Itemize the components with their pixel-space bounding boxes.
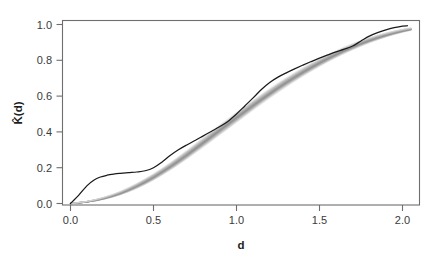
y-tick-label-0: 0.0 xyxy=(37,198,52,210)
y-tick-label-4: 0.8 xyxy=(37,54,52,66)
x-tick-label-0: 0.0 xyxy=(63,214,78,226)
y-tick-label-2: 0.4 xyxy=(37,126,52,138)
x-tick-label-1: 0.5 xyxy=(146,214,161,226)
y-tick-label-3: 0.6 xyxy=(37,90,52,102)
x-tick-label-4: 2.0 xyxy=(395,214,410,226)
y-tick-label-1: 0.2 xyxy=(37,162,52,174)
x-tick-label-2: 1.0 xyxy=(229,214,244,226)
x-tick-label-3: 1.5 xyxy=(312,214,327,226)
chart-figure: 0.0 0.2 0.4 0.6 0.8 1.0 0.0 0.5 1.0 1.5 … xyxy=(0,0,442,263)
x-axis-title: d xyxy=(237,239,244,251)
y-axis-title: K̂(d) xyxy=(12,101,24,124)
chart-svg: 0.0 0.2 0.4 0.6 0.8 1.0 0.0 0.5 1.0 1.5 … xyxy=(0,0,442,263)
y-tick-label-5: 1.0 xyxy=(37,19,52,31)
